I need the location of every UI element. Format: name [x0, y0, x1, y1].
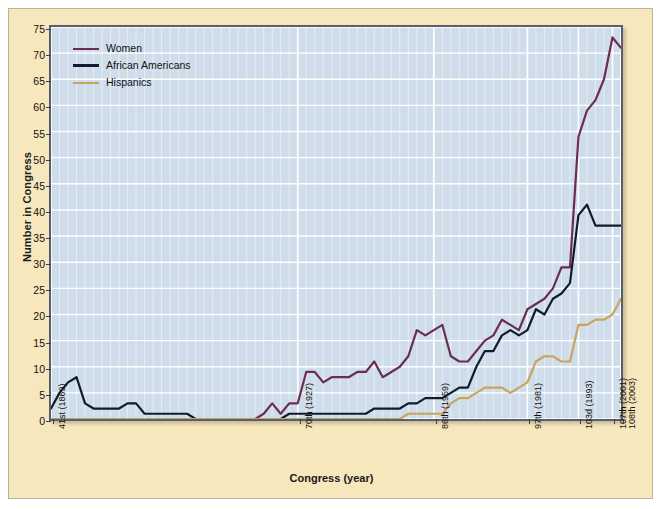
- y-tick-mark: [46, 290, 51, 291]
- y-tick-label: 45: [13, 180, 45, 192]
- plot-area: 051015202530354045505560657075 41st (186…: [49, 25, 623, 421]
- legend-label: African Americans: [106, 60, 191, 71]
- y-tick-label: 25: [13, 284, 45, 296]
- y-tick-label: 15: [13, 337, 45, 349]
- legend-label: Hispanics: [106, 77, 152, 88]
- y-tick-mark: [46, 343, 51, 344]
- y-tick-mark: [46, 160, 51, 161]
- x-tick-mark: [623, 419, 624, 424]
- x-tick-label: 86th (1959): [440, 383, 450, 429]
- chart-legend: WomenAfrican AmericansHispanics: [73, 41, 191, 92]
- legend-item[interactable]: African Americans: [73, 58, 191, 73]
- legend-swatch-icon: [73, 64, 99, 67]
- x-tick-label: 103d (1993): [584, 380, 594, 429]
- x-tick-mark: [300, 419, 301, 424]
- y-tick-mark: [46, 238, 51, 239]
- x-axis-title: Congress (year): [9, 472, 654, 484]
- y-tick-label: 40: [13, 206, 45, 218]
- x-tick-label: 41st (1869): [57, 383, 67, 429]
- y-tick-label: 20: [13, 310, 45, 322]
- x-tick-mark: [580, 419, 581, 424]
- y-tick-mark: [46, 81, 51, 82]
- y-tick-mark: [46, 107, 51, 108]
- y-tick-label: 10: [13, 363, 45, 375]
- x-tick-mark: [53, 419, 54, 424]
- legend-swatch-icon: [73, 48, 99, 50]
- y-tick-label: 70: [13, 49, 45, 61]
- y-tick-mark: [46, 264, 51, 265]
- y-tick-label: 55: [13, 128, 45, 140]
- legend-item[interactable]: Hispanics: [73, 75, 191, 90]
- legend-item[interactable]: Women: [73, 41, 191, 56]
- y-tick-label: 30: [13, 258, 45, 270]
- x-tick-mark: [614, 419, 615, 424]
- y-tick-label: 75: [13, 23, 45, 35]
- y-tick-mark: [46, 395, 51, 396]
- x-tick-label: 108th (2003): [627, 378, 637, 429]
- y-tick-label: 35: [13, 232, 45, 244]
- chart-figure: Number in Congress Congress (year) 05101…: [8, 8, 653, 499]
- y-tick-label: 0: [13, 415, 45, 427]
- x-tick-mark: [529, 419, 530, 424]
- y-tick-mark: [46, 369, 51, 370]
- legend-swatch-icon: [73, 82, 99, 84]
- y-tick-mark: [46, 212, 51, 213]
- y-tick-label: 50: [13, 154, 45, 166]
- legend-label: Women: [106, 43, 142, 54]
- x-tick-mark: [436, 419, 437, 424]
- x-tick-label: 97th (1981): [533, 383, 543, 429]
- y-tick-mark: [46, 421, 51, 422]
- y-tick-label: 65: [13, 75, 45, 87]
- y-tick-mark: [46, 186, 51, 187]
- y-tick-mark: [46, 55, 51, 56]
- y-tick-mark: [46, 29, 51, 30]
- y-tick-mark: [46, 134, 51, 135]
- y-tick-label: 60: [13, 101, 45, 113]
- x-tick-label: 70th (1927): [304, 383, 314, 429]
- y-tick-label: 5: [13, 389, 45, 401]
- y-tick-mark: [46, 316, 51, 317]
